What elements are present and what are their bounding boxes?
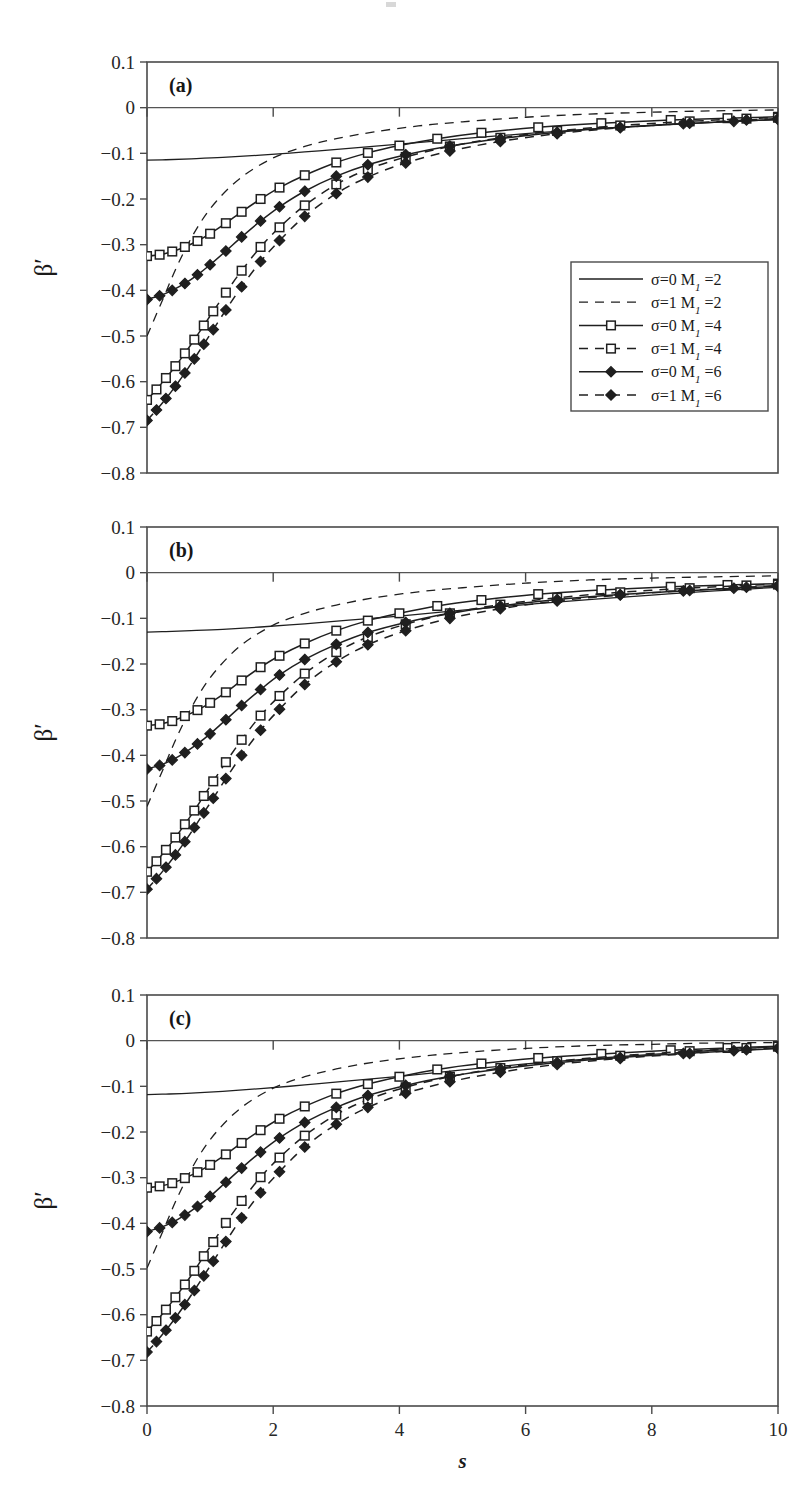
y-tick-label: −0.8 bbox=[101, 928, 135, 949]
y-axis-title: β′ bbox=[30, 258, 57, 276]
data-point-marker bbox=[181, 243, 190, 252]
data-point-marker bbox=[300, 1102, 309, 1111]
data-point-marker bbox=[181, 820, 190, 829]
data-point-marker bbox=[162, 846, 171, 855]
legend-marker-sample bbox=[607, 321, 616, 330]
y-tick-label: −0.8 bbox=[101, 463, 135, 484]
data-point-marker bbox=[433, 602, 442, 611]
data-point-marker bbox=[222, 758, 231, 767]
y-tick-label: 0 bbox=[126, 97, 136, 118]
data-point-marker bbox=[237, 1139, 246, 1148]
data-point-marker bbox=[193, 1168, 202, 1177]
y-tick-label: 0 bbox=[126, 1030, 136, 1051]
y-tick-label: −0.3 bbox=[101, 1167, 135, 1188]
y-tick-label: −0.5 bbox=[101, 1259, 135, 1280]
y-tick-label: −0.6 bbox=[101, 836, 135, 857]
data-point-marker bbox=[332, 1089, 341, 1098]
data-point-marker bbox=[222, 688, 231, 697]
data-point-marker bbox=[181, 349, 190, 358]
data-point-marker bbox=[256, 243, 265, 252]
data-point-marker bbox=[152, 1317, 161, 1326]
data-point-marker bbox=[300, 201, 309, 210]
data-point-marker bbox=[181, 1174, 190, 1183]
y-tick-label: −0.2 bbox=[101, 189, 135, 210]
data-point-marker bbox=[237, 266, 246, 275]
data-point-marker bbox=[256, 1173, 265, 1182]
data-point-marker bbox=[534, 590, 543, 599]
data-point-marker bbox=[275, 692, 284, 701]
data-point-marker bbox=[300, 171, 309, 180]
data-point-marker bbox=[237, 207, 246, 216]
x-tick-label: 8 bbox=[647, 1419, 657, 1440]
data-point-marker bbox=[275, 651, 284, 660]
y-tick-label: 0.1 bbox=[111, 985, 135, 1006]
data-point-marker bbox=[364, 616, 373, 625]
data-point-marker bbox=[364, 1080, 373, 1089]
data-point-marker bbox=[433, 134, 442, 143]
x-tick-label: 6 bbox=[521, 1419, 531, 1440]
data-point-marker bbox=[477, 128, 486, 137]
data-point-marker bbox=[162, 374, 171, 383]
data-point-marker bbox=[237, 1197, 246, 1206]
data-point-marker bbox=[155, 250, 164, 259]
data-point-marker bbox=[190, 1267, 199, 1276]
data-point-marker bbox=[275, 1114, 284, 1123]
scan-artifact bbox=[386, 2, 396, 7]
data-point-marker bbox=[256, 195, 265, 204]
data-point-marker bbox=[155, 1182, 164, 1191]
data-point-marker bbox=[256, 711, 265, 720]
y-tick-label: −0.5 bbox=[101, 326, 135, 347]
panel-label: (c) bbox=[169, 1007, 191, 1030]
data-point-marker bbox=[256, 1126, 265, 1135]
data-point-marker bbox=[237, 736, 246, 745]
y-tick-label: −0.6 bbox=[101, 371, 135, 392]
x-axis-title: s bbox=[457, 1449, 466, 1473]
y-axis-title: β′ bbox=[30, 1191, 57, 1209]
data-point-marker bbox=[477, 596, 486, 605]
data-point-marker bbox=[534, 123, 543, 132]
y-tick-label: 0 bbox=[126, 562, 136, 583]
y-tick-label: −0.1 bbox=[101, 1076, 135, 1097]
figure-root: 0.10−0.1−0.2−0.3−0.4−0.5−0.6−0.7−0.8(a)β… bbox=[0, 0, 806, 1486]
data-point-marker bbox=[193, 706, 202, 715]
data-point-marker bbox=[300, 639, 309, 648]
data-point-marker bbox=[222, 288, 231, 297]
data-point-marker bbox=[199, 321, 208, 330]
data-point-marker bbox=[199, 1252, 208, 1261]
data-point-marker bbox=[237, 676, 246, 685]
data-point-marker bbox=[477, 1059, 486, 1068]
y-tick-label: −0.4 bbox=[101, 280, 136, 301]
data-point-marker bbox=[275, 183, 284, 192]
data-point-marker bbox=[256, 663, 265, 672]
data-point-marker bbox=[155, 720, 164, 729]
y-tick-label: −0.4 bbox=[101, 1213, 136, 1234]
x-tick-label: 10 bbox=[769, 1419, 788, 1440]
y-tick-label: −0.6 bbox=[101, 1304, 135, 1325]
data-point-marker bbox=[222, 219, 231, 228]
data-point-marker bbox=[332, 626, 341, 635]
y-tick-label: 0.1 bbox=[111, 517, 135, 538]
data-point-marker bbox=[275, 1153, 284, 1162]
y-tick-label: −0.3 bbox=[101, 699, 135, 720]
x-tick-label: 2 bbox=[268, 1419, 278, 1440]
panel-label: (a) bbox=[169, 74, 192, 97]
legend: σ=0 M1 =2σ=1 M1 =2σ=0 M1 =4σ=1 M1 =4σ=0 … bbox=[571, 262, 768, 411]
x-tick-label: 0 bbox=[142, 1419, 152, 1440]
data-point-marker bbox=[209, 777, 218, 786]
data-point-marker bbox=[190, 335, 199, 344]
data-point-marker bbox=[168, 717, 177, 726]
data-point-marker bbox=[152, 857, 161, 866]
data-point-marker bbox=[181, 1280, 190, 1289]
data-point-marker bbox=[199, 792, 208, 801]
y-tick-label: −0.2 bbox=[101, 654, 135, 675]
data-point-marker bbox=[275, 223, 284, 232]
y-tick-label: −0.2 bbox=[101, 1122, 135, 1143]
data-point-marker bbox=[300, 1131, 309, 1140]
data-point-marker bbox=[193, 237, 202, 246]
data-point-marker bbox=[300, 669, 309, 678]
data-point-marker bbox=[364, 149, 373, 158]
data-point-marker bbox=[168, 247, 177, 256]
y-tick-label: −0.5 bbox=[101, 791, 135, 812]
y-tick-label: −0.1 bbox=[101, 608, 135, 629]
data-point-marker bbox=[222, 1219, 231, 1228]
